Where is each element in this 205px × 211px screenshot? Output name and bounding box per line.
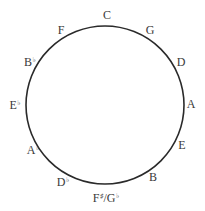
key-label-f: F	[58, 24, 65, 36]
key-label-b-flat: B♭	[24, 56, 36, 68]
key-label-e-flat: E♭	[9, 99, 20, 111]
circle-of-fifths-diagram: C G D A E B F♯/G♭ D♭ A♭ E♭ B♭ F	[0, 0, 205, 211]
key-label-a-flat: A♭	[27, 144, 39, 156]
key-label-g: G	[146, 24, 155, 36]
key-label-b: B	[149, 171, 157, 183]
key-label-f-sharp-g-flat: F♯/G♭	[93, 192, 120, 204]
circle-outline	[0, 0, 205, 211]
key-label-d: D	[177, 56, 186, 68]
key-label-d-flat: D♭	[57, 176, 69, 188]
key-label-c: C	[103, 9, 111, 21]
key-label-a: A	[187, 98, 196, 110]
key-label-e: E	[178, 139, 185, 151]
